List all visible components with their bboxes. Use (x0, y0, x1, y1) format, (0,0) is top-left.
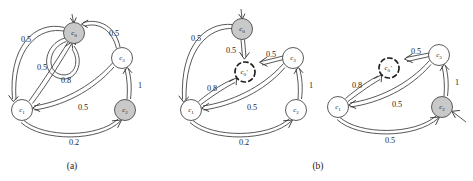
b1-label-c2-c3: 1 (309, 81, 313, 90)
b1-edge-c1-c0p (199, 78, 237, 105)
a-node-c2[interactable]: c2 (115, 100, 136, 121)
b2-edge-c2-c3 (440, 64, 449, 96)
caption-a: (a) (67, 161, 78, 172)
a-entry-arrow (71, 14, 77, 23)
b1-label-c3-c1: 0.5 (247, 103, 257, 112)
b1-label-c0-c1: 0.5 (191, 34, 201, 43)
b1-edge-c2-c3 (294, 67, 303, 99)
a-node-c1[interactable]: c1 (12, 100, 33, 121)
b2-label-c1-c2: 0.5 (385, 136, 395, 145)
b1-node-c2[interactable]: c2 (286, 100, 307, 121)
a-label-c1-c2: 0.2 (69, 138, 79, 147)
a-node-c0[interactable]: c0 (64, 23, 85, 44)
b2-label-c3-c0p: 0.5 (411, 47, 421, 56)
a-label-c3-c0: 0.5 (109, 29, 119, 38)
panel-b-graph-2: c0′ c1 c2 c3 0.5 0.8 0.5 1 0.5 (b) (312, 45, 466, 173)
b1-label-c1-c0p: 0.8 (207, 84, 217, 93)
b2-node-c0-prime[interactable]: c0′ (379, 58, 399, 78)
b2-entry-arrow (452, 111, 466, 123)
a-edge-c1-c0 (29, 42, 73, 104)
b2-node-c2[interactable]: c2 (432, 97, 453, 118)
b1-entry-arrow (239, 9, 245, 19)
b1-node-c1[interactable]: c1 (181, 100, 202, 121)
b2-label-c2-c3: 1 (455, 78, 459, 87)
caption-b: (b) (312, 161, 323, 172)
figure-root: c0 c1 c2 c3 0.5 0.5 0.5 0.8 0.5 1 0.2 (a… (0, 0, 473, 181)
panel-a: c0 c1 c2 c3 0.5 0.5 0.5 0.8 0.5 1 0.2 (a… (9, 14, 142, 172)
a-node-c3[interactable]: c3 (112, 48, 133, 69)
b1-node-c0[interactable]: c0 (232, 19, 253, 40)
b1-edge-c0-c0p (240, 40, 249, 60)
b2-label-c3-c1: 0.5 (392, 100, 402, 109)
figure-canvas: c0 c1 c2 c3 0.5 0.5 0.5 0.8 0.5 1 0.2 (a… (0, 0, 473, 181)
b2-node-c3[interactable]: c3 (429, 45, 450, 66)
panel-b-graph-1: c0 c0′ c1 c2 c3 0.5 0.5 0.5 0.8 (179, 9, 313, 147)
b1-node-c3[interactable]: c3 (283, 48, 304, 69)
b1-label-c0-c0p: 0.5 (226, 46, 236, 55)
a-label-c1-c0: 0.8 (61, 76, 71, 85)
b1-edge-c1-c2 (190, 119, 293, 137)
a-label-c2-c3: 1 (138, 81, 142, 90)
b1-node-c0-prime[interactable]: c0′ (235, 62, 255, 82)
b1-label-c1-c2: 0.2 (239, 138, 249, 147)
a-label-c0-c1: 0.5 (21, 35, 31, 44)
b2-node-c1[interactable]: c1 (328, 97, 349, 118)
a-edge-c2-c3 (123, 67, 132, 99)
a-edge-c1-c2 (21, 119, 122, 137)
a-label-c0-self: 0.5 (37, 63, 47, 72)
b2-edge-c1-c2 (337, 116, 440, 134)
b2-label-c1-c0p: 0.8 (352, 81, 362, 90)
b1-label-c3-c0p: 0.5 (266, 50, 276, 59)
a-label-c3-c1: 0.5 (78, 103, 88, 112)
